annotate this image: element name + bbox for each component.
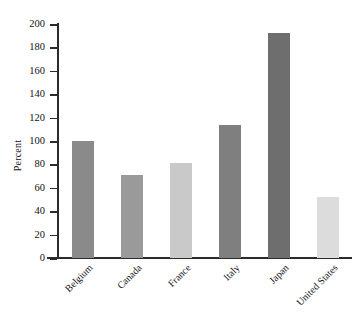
x-axis-label-united-states: United States — [282, 262, 339, 318]
bar-belgium — [72, 141, 94, 258]
y-axis-tick-mark — [50, 118, 57, 120]
y-axis-tick-label: 120 — [13, 111, 45, 124]
y-axis-tick-mark — [50, 47, 57, 49]
bar-japan — [268, 33, 290, 258]
y-axis-tick-mark — [50, 24, 57, 26]
x-axis-label-france: France — [135, 262, 192, 318]
y-axis-tick-mark — [50, 164, 57, 166]
y-axis-tick-mark — [50, 258, 57, 260]
y-axis-tick-label: 100 — [13, 134, 45, 147]
x-axis-label-belgium: Belgium — [37, 262, 94, 318]
y-axis-tick-label: 20 — [13, 228, 45, 241]
y-axis-tick-mark — [50, 235, 57, 237]
y-axis-tick-label: 160 — [13, 64, 45, 77]
bar-united-states — [317, 197, 339, 258]
y-axis-tick-label: 0 — [13, 251, 45, 264]
bar-chart-figure: Percent 200180160140120100806040200 Belg… — [0, 0, 360, 318]
bar-italy — [219, 125, 241, 258]
x-axis-label-canada: Canada — [86, 262, 143, 318]
y-axis-tick-label: 40 — [13, 204, 45, 217]
bar-france — [170, 163, 192, 258]
y-axis-tick-label: 140 — [13, 87, 45, 100]
y-axis-tick-mark — [50, 94, 57, 96]
y-axis-tick-mark — [50, 188, 57, 190]
plot-area: 200180160140120100806040200 — [58, 24, 352, 258]
y-axis-tick-label: 180 — [13, 40, 45, 53]
y-axis-tick-mark — [50, 211, 57, 213]
y-axis-tick-label: 60 — [13, 181, 45, 194]
y-axis-tick-label: 200 — [13, 17, 45, 30]
y-axis-tick-label: 80 — [13, 157, 45, 170]
bar-canada — [121, 175, 143, 258]
y-axis-tick-mark — [50, 141, 57, 143]
x-axis-label-italy: Italy — [184, 262, 241, 318]
y-axis-tick-mark — [50, 71, 57, 73]
x-axis-label-japan: Japan — [233, 262, 290, 318]
